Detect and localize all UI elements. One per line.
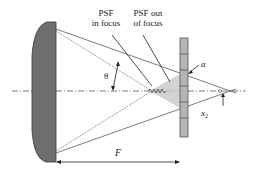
- psf-in-focus-pointer: [112, 35, 152, 86]
- psf-spot: [150, 74, 180, 108]
- label-theta: θ: [104, 71, 108, 81]
- optical-diagram: PSF in focus PSF out of focus θ a x2 F: [0, 0, 255, 172]
- focal-point: [219, 90, 222, 93]
- label-F: F: [114, 147, 122, 158]
- detector-array: [180, 38, 188, 137]
- focal-length-arrow-head-left: [56, 160, 61, 164]
- theta-arrow-head-down: [111, 86, 115, 91]
- label-psf-out-focus-1: PSF out: [134, 8, 163, 18]
- label-psf-in-focus-1: PSF: [98, 8, 113, 18]
- primary-mirror: [32, 22, 56, 162]
- ray-upper-solid: [56, 29, 236, 93]
- ray-upper-dotted: [56, 31, 152, 91]
- label-a: a: [201, 59, 206, 69]
- theta-arrow: [113, 64, 118, 89]
- focal-length-arrow-head-right: [175, 160, 180, 164]
- label-psf-in-focus-2: in focus: [92, 18, 121, 28]
- label-x2: x2: [200, 108, 208, 119]
- ray-lower-dotted: [56, 91, 152, 151]
- x2-arrow-head: [221, 93, 225, 97]
- theta-arrow-head-up: [116, 61, 120, 66]
- label-psf-out-focus-2: of focus: [133, 18, 163, 28]
- psf-out-focus-pointer: [143, 35, 170, 82]
- ray-lower-solid: [56, 89, 236, 153]
